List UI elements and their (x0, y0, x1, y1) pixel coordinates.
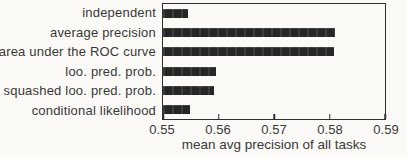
bar (163, 86, 214, 95)
x-tick-label: 0.58 (317, 122, 342, 137)
x-tick-mark (162, 114, 164, 119)
bars-container (163, 4, 385, 119)
x-tick-label: 0.57 (261, 122, 286, 137)
bar-row (163, 4, 385, 23)
category-label: average precision (0, 23, 156, 43)
x-axis-title: mean avg precision of all tasks (162, 137, 386, 152)
x-tick-mark (273, 114, 275, 119)
category-label: independent (0, 3, 156, 23)
bar (163, 67, 216, 76)
category-label: conditional likelihood (0, 101, 156, 121)
x-tick-label: 0.56 (205, 122, 230, 137)
category-label: area under the ROC curve (0, 42, 156, 62)
x-tick-mark (384, 114, 386, 119)
bar-row (163, 81, 385, 100)
bar (163, 105, 190, 114)
x-tick-label: 0.59 (373, 122, 398, 137)
x-axis-tick-labels: 0.550.560.570.580.59 (162, 122, 386, 136)
bar-row (163, 23, 385, 42)
bar-row (163, 42, 385, 61)
bar-row (163, 62, 385, 81)
bar (163, 47, 334, 56)
category-label: squashed loo. pred. prob. (0, 81, 156, 101)
bar-chart-figure: independentaverage precisionarea under t… (0, 0, 407, 157)
bar (163, 28, 335, 37)
plot-area (162, 3, 386, 120)
category-label: loo. pred. prob. (0, 62, 156, 82)
category-axis-labels: independentaverage precisionarea under t… (0, 3, 156, 120)
x-tick-mark (329, 114, 331, 119)
bar (163, 9, 188, 18)
x-tick-label: 0.55 (149, 122, 174, 137)
x-tick-mark (218, 114, 220, 119)
